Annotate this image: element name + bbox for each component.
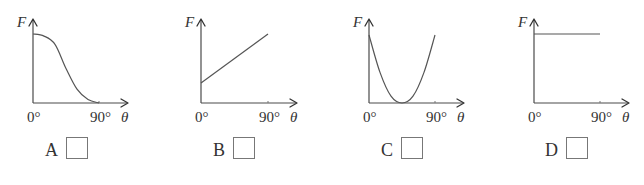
option-label-c: C (381, 141, 393, 159)
curve (369, 35, 435, 103)
y-axis-label: F (184, 14, 195, 30)
x-axis-label: θ (457, 109, 465, 125)
option-label-a: A (45, 141, 58, 159)
x-tick-label-0: 0° (195, 109, 209, 125)
panel-d-graph: F 0° 90° θ (517, 14, 630, 125)
curve (201, 34, 268, 83)
x-tick-label-90: 90° (591, 109, 612, 125)
x-tick-label-0: 0° (363, 109, 377, 125)
panel-b-graph: F 0° 90° θ (184, 14, 298, 125)
option-label-d: D (545, 141, 558, 159)
y-axis-label: F (16, 14, 27, 30)
panel-a-graph: F 0° 90° θ (16, 14, 129, 125)
y-axis-label: F (517, 14, 528, 30)
answer-checkbox-b[interactable] (233, 137, 255, 159)
answer-checkbox-a[interactable] (66, 137, 88, 159)
x-axis-label: θ (290, 109, 298, 125)
x-tick-label-90: 90° (90, 109, 111, 125)
panel-c-graph: F 0° 90° θ (352, 14, 465, 125)
curve (33, 34, 99, 103)
answer-checkbox-c[interactable] (401, 137, 423, 159)
option-label-b: B (213, 141, 225, 159)
y-axis-label: F (352, 14, 363, 30)
x-axis-label: θ (121, 109, 129, 125)
x-tick-label-0: 0° (27, 109, 41, 125)
x-tick-label-90: 90° (426, 109, 447, 125)
x-tick-label-0: 0° (528, 109, 542, 125)
answer-checkbox-d[interactable] (566, 137, 588, 159)
x-tick-label-90: 90° (259, 109, 280, 125)
x-axis-label: θ (622, 109, 630, 125)
